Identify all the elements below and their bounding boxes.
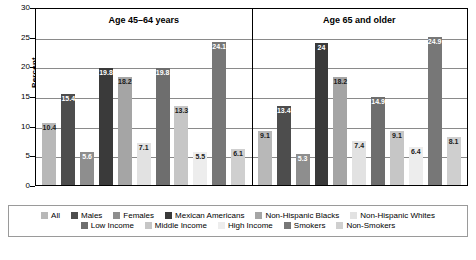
bar-value-label: 8.1 — [449, 138, 459, 145]
bar-value-label: 7.4 — [354, 142, 364, 149]
legend-label: High Income — [228, 221, 273, 230]
bar-slot: 10.4 — [40, 35, 59, 185]
bar-slot: 5.5 — [191, 35, 210, 185]
bar[interactable]: 6.1 — [231, 149, 245, 185]
panels-container: Age 45–64 years 10.415.45.619.818.27.119… — [35, 8, 468, 186]
bar[interactable]: 24 — [315, 43, 329, 185]
bar[interactable]: 7.4 — [352, 141, 366, 185]
y-tick-label: 20 — [4, 63, 30, 71]
bar[interactable]: 13.3 — [174, 106, 188, 185]
legend-item-mexican-americans[interactable]: Mexican Americans — [165, 211, 244, 220]
y-tick-label: 15 — [4, 93, 30, 101]
bar[interactable]: 9.1 — [390, 131, 404, 185]
legend-swatch-icon — [145, 222, 152, 229]
bar-value-label: 9.1 — [260, 132, 270, 139]
legend-swatch-icon — [41, 212, 48, 219]
legend-item-all[interactable]: All — [41, 211, 60, 220]
bar-slot: 18.2 — [331, 35, 350, 185]
bar[interactable]: 19.8 — [156, 68, 170, 185]
bar-slot: 9.1 — [388, 35, 407, 185]
bar-value-label: 10.4 — [43, 124, 57, 131]
bar-value-label: 5.5 — [195, 153, 205, 160]
bar-group: 9.113.45.32418.27.414.99.16.424.98.1 — [256, 35, 464, 185]
bar-chart: Percent 051015202530 Age 45–64 years 10.… — [0, 0, 476, 260]
legend-swatch-icon — [113, 212, 120, 219]
legend-item-low-income[interactable]: Low Income — [81, 221, 134, 230]
bar-value-label: 19.8 — [156, 69, 170, 76]
legend-item-middle-income[interactable]: Middle Income — [145, 221, 207, 230]
bar-value-label: 18.2 — [118, 78, 132, 85]
legend-label: Non-Smokers — [346, 221, 395, 230]
legend-label: Females — [123, 211, 154, 220]
bar-value-label: 5.6 — [82, 153, 92, 160]
bar-slot: 7.4 — [350, 35, 369, 185]
bar-slot: 8.1 — [444, 35, 463, 185]
bar[interactable]: 10.4 — [42, 123, 56, 185]
panel-age-45-64: Age 45–64 years 10.415.45.619.818.27.119… — [36, 9, 252, 185]
legend-item-smokers[interactable]: Smokers — [284, 221, 326, 230]
bar[interactable]: 24.9 — [428, 37, 442, 185]
bar[interactable]: 5.5 — [193, 152, 207, 185]
bar-slot: 6.1 — [229, 35, 248, 185]
bar-value-label: 24.1 — [212, 43, 226, 50]
y-tick-label: 30 — [4, 4, 30, 12]
legend-item-non-hispanic-blacks[interactable]: Non-Hispanic Blacks — [255, 211, 339, 220]
y-tick-label: 0 — [4, 182, 30, 190]
legend-item-males[interactable]: Males — [71, 211, 102, 220]
legend-row: AllMalesFemalesMexican AmericansNon-Hisp… — [15, 211, 461, 220]
bar-slot: 14.9 — [369, 35, 388, 185]
bar-value-label: 6.4 — [411, 148, 421, 155]
legend: AllMalesFemalesMexican AmericansNon-Hisp… — [8, 205, 468, 237]
bar-slot: 15.4 — [59, 35, 78, 185]
y-tick-mark — [30, 186, 35, 187]
bar-value-label: 19.8 — [99, 69, 113, 76]
legend-label: Middle Income — [155, 221, 207, 230]
bar[interactable]: 14.9 — [371, 97, 385, 185]
bar-value-label: 24 — [318, 44, 326, 51]
bar-value-label: 5.3 — [298, 155, 308, 162]
legend-label: Low Income — [91, 221, 134, 230]
bar-slot: 13.3 — [172, 35, 191, 185]
y-axis-ticks: 051015202530 — [0, 8, 34, 186]
bar[interactable]: 5.6 — [80, 152, 94, 185]
legend-swatch-icon — [218, 222, 225, 229]
legend-swatch-icon — [165, 212, 172, 219]
y-tick-label: 5 — [4, 152, 30, 160]
legend-row: Low IncomeMiddle IncomeHigh IncomeSmoker… — [15, 221, 461, 230]
bar-value-label: 13.4 — [277, 107, 291, 114]
bar[interactable]: 8.1 — [447, 137, 461, 185]
bar[interactable]: 24.1 — [212, 42, 226, 185]
bar-value-label: 14.9 — [371, 98, 385, 105]
bar-group: 10.415.45.619.818.27.119.813.35.524.16.1 — [40, 35, 248, 185]
panel-title: Age 65 and older — [252, 15, 468, 25]
bar-slot: 5.3 — [293, 35, 312, 185]
legend-swatch-icon — [284, 222, 291, 229]
bar-slot: 24.1 — [210, 35, 229, 185]
y-tick-label: 10 — [4, 123, 30, 131]
panel-age-65-older: Age 65 and older 9.113.45.32418.27.414.9… — [252, 9, 468, 185]
legend-item-non-hispanic-whites[interactable]: Non-Hispanic Whites — [350, 211, 435, 220]
legend-swatch-icon — [71, 212, 78, 219]
legend-swatch-icon — [336, 222, 343, 229]
bar[interactable]: 5.3 — [296, 154, 310, 185]
bar[interactable]: 6.4 — [409, 147, 423, 185]
bar-value-label: 15.4 — [61, 95, 75, 102]
bar[interactable]: 7.1 — [137, 143, 151, 185]
legend-label: Smokers — [294, 221, 326, 230]
bar[interactable]: 9.1 — [258, 131, 272, 185]
legend-item-high-income[interactable]: High Income — [218, 221, 273, 230]
legend-item-females[interactable]: Females — [113, 211, 154, 220]
bar[interactable]: 19.8 — [99, 68, 113, 185]
legend-label: Males — [81, 211, 102, 220]
bar-slot: 13.4 — [274, 35, 293, 185]
bar-slot: 19.8 — [153, 35, 172, 185]
bar-value-label: 9.1 — [392, 132, 402, 139]
bar[interactable]: 18.2 — [333, 77, 347, 185]
bar[interactable]: 13.4 — [277, 106, 291, 186]
legend-item-non-smokers[interactable]: Non-Smokers — [336, 221, 395, 230]
legend-label: Non-Hispanic Whites — [360, 211, 435, 220]
bar[interactable]: 18.2 — [118, 77, 132, 185]
bar[interactable]: 15.4 — [61, 94, 75, 185]
bar-slot: 6.4 — [406, 35, 425, 185]
panel-title: Age 45–64 years — [36, 15, 252, 25]
